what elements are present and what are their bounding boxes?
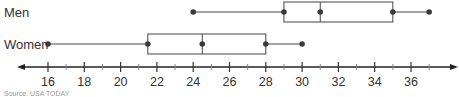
- box-plot-men: Men: [4, 2, 432, 22]
- min-point: [190, 9, 196, 15]
- tick-label: 36: [404, 75, 418, 89]
- tick-label: 34: [368, 75, 382, 89]
- tick-label: 22: [150, 75, 164, 89]
- q1-point: [145, 41, 151, 47]
- median-point: [199, 41, 205, 47]
- tick-label: 30: [295, 75, 309, 89]
- q3-point: [263, 41, 269, 47]
- box-plot-women: Women: [4, 34, 305, 54]
- max-point: [299, 41, 305, 47]
- number-line-axis: 1618202224262830323436: [17, 62, 458, 89]
- arrow-right-icon: [450, 64, 458, 70]
- row-label: Women: [4, 37, 49, 52]
- source-footnote: Source: USA TODAY: [4, 90, 70, 97]
- box-plot-chart: MenWomen 1618202224262830323436 Source: …: [0, 0, 459, 97]
- iqr-box: [284, 2, 393, 22]
- tick-label: 26: [223, 75, 237, 89]
- max-point: [426, 9, 432, 15]
- tick-label: 18: [77, 75, 91, 89]
- tick-label: 20: [114, 75, 128, 89]
- median-point: [317, 9, 323, 15]
- tick-label: 16: [41, 75, 55, 89]
- tick-label: 32: [331, 75, 345, 89]
- tick-label: 28: [259, 75, 273, 89]
- q3-point: [390, 9, 396, 15]
- box-plot-rows: MenWomen: [4, 2, 432, 54]
- min-point: [45, 41, 51, 47]
- tick-label: 24: [186, 75, 200, 89]
- iqr-box: [148, 34, 266, 54]
- arrow-left-icon: [17, 64, 25, 70]
- q1-point: [281, 9, 287, 15]
- row-label: Men: [4, 5, 29, 20]
